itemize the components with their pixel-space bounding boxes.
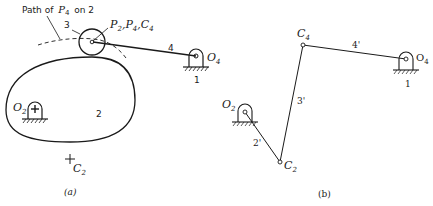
point-c4-label: C4 xyxy=(297,27,310,42)
pivot-o4-a xyxy=(183,49,209,71)
path-label-leader xyxy=(47,16,60,39)
link-2-prime-label: 2' xyxy=(253,138,261,148)
center-c2-label: C2 xyxy=(73,162,86,177)
link-4-prime-label: 4' xyxy=(352,40,360,50)
link-3-prime-label: 3' xyxy=(297,96,305,106)
roller-label-3: 3 xyxy=(64,20,70,30)
figure-b: C4 4' O4 1 3' O2 2' C2 (b) xyxy=(222,27,429,199)
link-4-label: 4 xyxy=(168,43,174,53)
link-4 xyxy=(93,42,196,56)
pivot-o2-label-b: O2 xyxy=(222,98,236,113)
point-label-p2-p4-c4: P2,P4,C4 xyxy=(109,18,154,33)
link-2-prime xyxy=(245,112,280,162)
path-label: Path of P4 on 2 xyxy=(22,4,94,17)
pivot-o4-label-a: O4 xyxy=(207,51,221,66)
roller-3 xyxy=(79,29,105,55)
pivot-o4-label-b: O4 xyxy=(416,52,429,66)
ground-1-label-a: 1 xyxy=(194,75,200,85)
path-of-p4-dashed xyxy=(38,38,126,58)
point-c2-label: C2 xyxy=(284,159,297,174)
caption-b: (b) xyxy=(318,189,331,199)
cam-profile xyxy=(6,57,135,142)
cam-label-2: 2 xyxy=(96,109,102,119)
pivot-o2-b xyxy=(232,104,258,126)
joint-c4 xyxy=(301,43,305,47)
pivot-o2-label-a: O2 xyxy=(13,101,27,116)
roller-label-leader xyxy=(72,30,80,34)
ground-1-label-b: 1 xyxy=(405,79,411,89)
figure-a: Path of P4 on 2 3 P2,P4,C4 4 O4 1 O2 2 C… xyxy=(6,4,221,197)
caption-a: (a) xyxy=(64,187,77,197)
cam-linkage-diagram: Path of P4 on 2 3 P2,P4,C4 4 O4 1 O2 2 C… xyxy=(0,0,433,206)
joint-c2 xyxy=(278,160,282,164)
